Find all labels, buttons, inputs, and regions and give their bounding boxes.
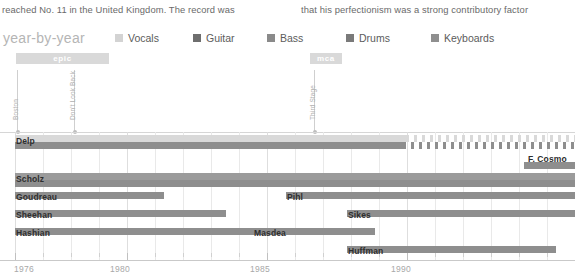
bar-pihl-guitar[interactable] [286,192,575,199]
axis-tick [15,253,16,260]
axis-label-1976: 1976 [14,264,34,274]
axis-tick [435,253,436,257]
axis-tick [267,253,268,260]
axis-label-1985: 1985 [250,264,270,274]
bar-hashian-drums[interactable] [15,228,253,235]
axis-tick [211,253,212,257]
member-label-scholz: Scholz [16,174,44,184]
axis-tick [43,253,44,257]
legend-item-vocals[interactable]: Vocals [115,32,193,44]
axis-tick [295,253,296,257]
legend-label-guitar: Guitar [206,32,235,44]
era-band-mca: mca [310,53,342,64]
album-label-dont-look-back: Don't Look Back [69,71,76,120]
legend-swatch-icon [115,34,123,42]
bar-delp-vocals-intermittent[interactable] [406,135,575,142]
axis-tick [127,253,128,260]
axis-tick [463,253,464,257]
axis-tick [519,253,520,257]
chart-legend: year-by-year Vocals Guitar Bass Drums Ke… [0,27,575,49]
member-label-huffman: Huffman [348,246,383,256]
member-label-f-cosmo: F. Cosmo [528,154,567,164]
legend-label-vocals: Vocals [128,32,159,44]
axis-tick [547,253,548,257]
axis-tick [407,253,408,260]
member-label-hashian: Hashian [16,228,50,238]
bar-sikes-bass[interactable] [347,210,575,217]
member-label-masdea: Masdea [254,228,286,238]
member-label-delp: Delp [16,136,35,146]
legend-swatch-icon [431,34,439,42]
article-body-text: reached No. 11 in the United Kingdom. Th… [0,0,575,22]
chart-title: year-by-year [0,30,115,46]
axis-label-1990: 1990 [391,264,411,274]
legend-item-bass[interactable]: Bass [267,32,346,44]
album-label-boston: Boston [12,99,19,120]
album-marker-third-stage[interactable]: Third Stage [314,70,315,132]
member-label-sheehan: Sheehan [16,210,52,220]
record-label-era-row: epic mca [0,50,575,64]
member-label-sikes: Sikes [348,210,371,220]
axis-tick [239,253,240,257]
member-label-goudreau: Goudreau [16,192,57,202]
era-band-epic: epic [16,53,109,64]
album-marker-boston[interactable]: Boston [17,70,18,132]
timeline-chart: epic mca Boston Don't Look Back Third St… [0,50,575,279]
axis-label-1980: 1980 [110,264,130,274]
axis-year-labels: 1976 1980 1985 1990 [0,261,575,279]
album-marker-dont-look-back[interactable]: Don't Look Back [74,70,75,132]
bar-delp-guitar-intermittent[interactable] [403,142,575,149]
axis-tick [183,253,184,257]
album-markers: Boston Don't Look Back Third Stage [0,64,575,132]
article-column-right: that his perfectionism was a strong cont… [301,0,575,22]
bar-delp-guitar[interactable] [15,142,403,149]
article-column-left: reached No. 11 in the United Kingdom. Th… [0,0,301,22]
axis-tick [323,253,324,257]
legend-item-keyboards[interactable]: Keyboards [431,32,521,44]
member-label-pihl: Pihl [287,192,303,202]
legend-swatch-icon [346,34,354,42]
legend-label-bass: Bass [280,32,303,44]
bar-delp-vocals[interactable] [15,135,406,142]
legend-label-drums: Drums [359,32,390,44]
legend-item-drums[interactable]: Drums [346,32,431,44]
legend-swatch-icon [193,34,201,42]
bar-scholz-keyboards[interactable] [15,180,575,187]
axis-tick [155,253,156,257]
legend-item-guitar[interactable]: Guitar [193,32,267,44]
legend-label-keyboards: Keyboards [444,32,494,44]
legend-swatch-icon [267,34,275,42]
timeline-rows: Delp F. Cosmo Scholz Goudreau Pihl Sheeh… [0,132,575,261]
axis-tick [491,253,492,257]
axis-tick [71,253,72,257]
axis-ticks [0,253,575,260]
bar-scholz-guitar[interactable] [15,173,575,180]
axis-tick [99,253,100,257]
album-label-third-stage: Third Stage [309,85,316,120]
